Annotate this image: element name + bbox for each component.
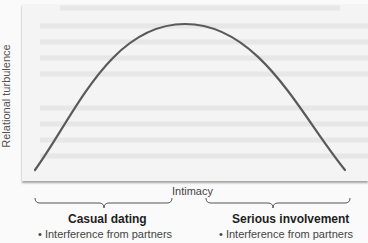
- serious-involvement-bullet: • Interference from partners: [219, 228, 353, 240]
- serious-involvement-brace: [206, 198, 350, 208]
- turbulence-curve: [35, 24, 345, 170]
- x-axis-label: Intimacy: [172, 185, 213, 197]
- casual-dating-label: Casual dating: [68, 212, 147, 226]
- casual-dating-bullet: • Interference from partners: [38, 228, 172, 240]
- chart-svg: [0, 0, 368, 243]
- casual-dating-brace: [35, 198, 172, 208]
- serious-involvement-label: Serious involvement: [232, 212, 349, 226]
